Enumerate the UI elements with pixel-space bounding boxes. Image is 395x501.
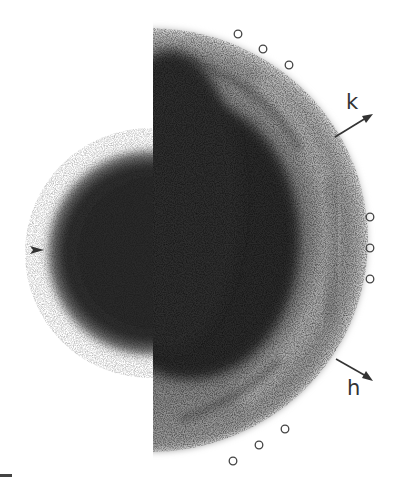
marker-circle	[281, 425, 289, 433]
scale-bar	[0, 474, 12, 477]
marker-circle	[285, 61, 293, 69]
marker-circle	[234, 30, 242, 38]
marker-circle	[255, 441, 263, 449]
k-axis-label: k	[346, 92, 358, 113]
marker-circle	[229, 457, 237, 465]
marker-circle	[366, 275, 374, 283]
h-axis-label: h	[347, 378, 360, 399]
k-arrow-icon	[335, 114, 373, 137]
marker-circle	[366, 213, 374, 221]
diffraction-figure	[0, 0, 395, 501]
marker-circle	[259, 45, 267, 53]
